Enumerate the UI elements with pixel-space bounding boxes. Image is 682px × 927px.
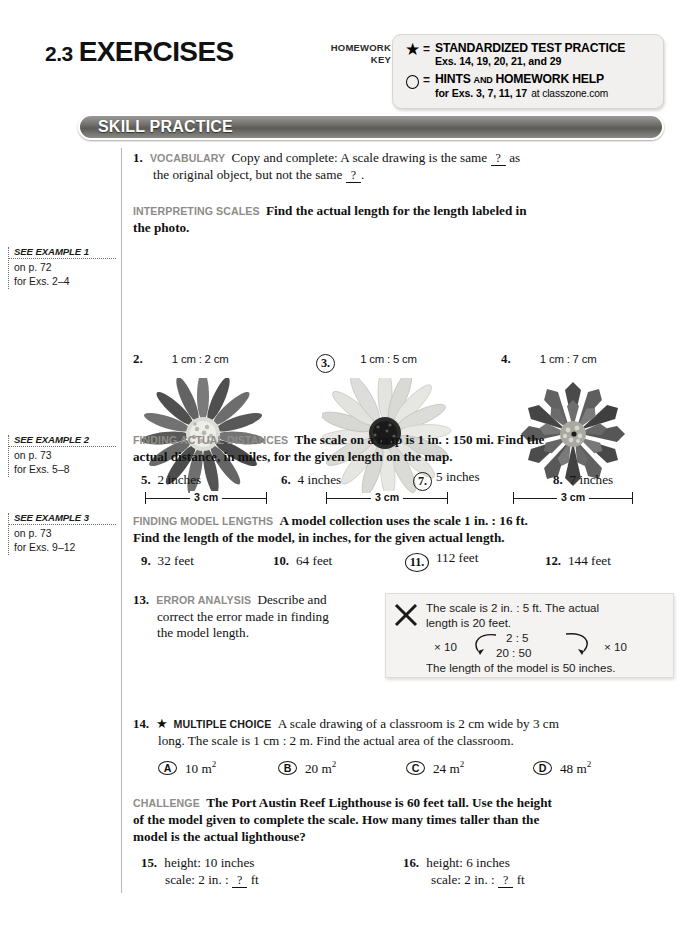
exercises-9-12-row: 9. 32 feet 10. 64 feet 11. 112 feet 12. … (133, 551, 673, 573)
distances-line-1: The scale on a map is 1 in. : 150 mi. Fi… (295, 432, 545, 447)
error-work-line-1: The scale is 2 in. : 5 ft. The actual (426, 600, 671, 615)
left-multiplier: × 10 (434, 639, 457, 654)
see-example-title: SEE EXAMPLE 3 (14, 512, 89, 523)
hints-exercise-list: for Exs. 3, 7, 11, 17 (435, 87, 527, 99)
scale-ruler-4: 3 cm (513, 492, 633, 504)
choice-letter: A (158, 761, 177, 775)
choice-letter: D (533, 761, 552, 775)
exercise-1-text-b: as (509, 150, 520, 165)
lesson-number: 2.3 (45, 42, 73, 65)
star-icon: ★ (401, 41, 423, 58)
exercise-13-line-3: the model length. (157, 625, 249, 640)
models-line-1: A model collection uses the scale 1 in. … (280, 513, 528, 528)
exercise-number-circled[interactable]: 3. (316, 354, 335, 373)
exercise-14-choices: A 10 m2 B 20 m2 C 24 m2 D 48 m2 (133, 759, 673, 781)
exercise-13-line-2: correct the error made in finding (157, 609, 329, 624)
exercise-15-scale-pre: scale: 2 in. : (165, 872, 229, 887)
ruler-label: 3 cm (371, 491, 403, 503)
answer-blank-1: ? (491, 151, 506, 166)
exercise-8: 8. 7 inches (553, 470, 613, 489)
exercise-number: 1. (133, 151, 143, 165)
choice-a[interactable]: A 10 m2 (158, 759, 216, 778)
choice-exponent: 2 (587, 759, 592, 769)
exercise-number: 7. (418, 474, 427, 489)
answer-blank: ? (498, 873, 513, 888)
see-example-exercises: for Exs. 5–8 (14, 463, 116, 477)
challenge-line-2: of the model given to complete the scale… (133, 812, 539, 827)
exercise-14-line-2: long. The scale is 1 cm : 2 m. Find the … (158, 733, 514, 748)
exercise-number-circled[interactable]: 7. (413, 472, 432, 491)
exercise-16-scale-pre: scale: 2 in. : (431, 872, 495, 887)
choice-letter: C (406, 761, 425, 775)
equals-sign: = (423, 72, 435, 87)
see-example-page: on p. 73 (14, 527, 116, 541)
choice-c[interactable]: C 24 m2 (406, 759, 464, 778)
star-icon: ★ (156, 717, 168, 731)
flower-exercise-3: 3. 1 cm : 5 cm (316, 352, 498, 373)
flower-scale-label: 1 cm : 7 cm (540, 353, 597, 365)
exercise-1-text-c: the original object, but not the same (153, 167, 342, 182)
ruler-label: 3 cm (557, 491, 589, 503)
challenge-directions: CHALLENGE The Port Austin Reef Lighthous… (133, 795, 673, 845)
classzone-url: at classzone.com (531, 88, 608, 99)
exercise-10-text: 64 feet (296, 553, 332, 568)
error-work-conclusion: The length of the model is 50 inches. (426, 660, 615, 675)
interpreting-line-1: Find the actual length for the length la… (266, 203, 527, 218)
exercise-number: 14. (133, 717, 149, 731)
challenge-line-3: model is the actual lighthouse? (133, 829, 306, 844)
homework-key-label: HOMEWORK KEY (271, 42, 391, 66)
exercise-7: 7. 5 inches (413, 467, 480, 491)
choice-value: 24 m (433, 761, 460, 776)
exercise-number: 2. (133, 352, 143, 366)
distances-line-2: actual distance, in miles, for the given… (133, 449, 453, 464)
see-example-box-2: SEE EXAMPLE 2 on p. 73 for Exs. 5–8 (8, 446, 116, 476)
ruler-label: 3 cm (190, 491, 222, 503)
finding-distances-directions: FINDING ACTUAL DISTANCES The scale on a … (133, 432, 673, 466)
exercise-number-circled[interactable]: 11. (405, 553, 429, 572)
exercise-6: 6. 4 inches (281, 470, 341, 489)
directions-tag-interpreting: INTERPRETING SCALES (133, 205, 260, 217)
exercise-10: 10. 64 feet (273, 551, 332, 570)
and-word: AND (474, 75, 493, 85)
exercises-5-8-row: 5. 2 inches 6. 4 inches 7. 5 inches 8. 7… (133, 470, 673, 492)
answer-blank-2: ? (346, 168, 361, 183)
choice-letter: B (278, 761, 297, 775)
choice-value: 20 m (305, 761, 332, 776)
exercise-number: 11. (410, 555, 425, 570)
exercise-number: 3. (321, 356, 330, 371)
homework-key-detail-hints: for Exs. 3, 7, 11, 17at classzone.com (435, 87, 608, 100)
exercise-1-text-a: Copy and complete: A scale drawing is th… (232, 150, 488, 165)
equals-sign: = (423, 41, 435, 56)
homework-help-word: HOMEWORK HELP (495, 72, 603, 86)
exercise-number: 15. (141, 856, 157, 870)
directions-tag-distances: FINDING ACTUAL DISTANCES (133, 434, 288, 446)
hints-word: HINTS (435, 72, 471, 86)
exercise-16: 16. height: 6 inches scale: 2 in. : ? ft (403, 855, 643, 888)
page-header: 2.3EXERCISES HOMEWORK KEY ★ = STANDARDIZ… (0, 0, 682, 108)
scale-ruler-2: 3 cm (145, 492, 267, 504)
exercise-12-text: 144 feet (568, 553, 611, 568)
exercise-11: 11. 112 feet (405, 548, 478, 572)
exercise-14-line-1: A scale drawing of a classroom is 2 cm w… (278, 716, 559, 731)
flower-exercise-4: 4. 1 cm : 7 cm (501, 352, 681, 367)
see-example-page: on p. 73 (14, 449, 116, 463)
homework-key-box: ★ = STANDARDIZED TEST PRACTICE Exs. 14, … (392, 34, 664, 109)
lesson-word: EXERCISES (79, 36, 234, 67)
choice-exponent: 2 (332, 759, 337, 769)
page-title: 2.3EXERCISES (45, 36, 234, 68)
skill-practice-label: SKILL PRACTICE (98, 118, 233, 136)
skill-practice-banner: SKILL PRACTICE (78, 114, 664, 140)
exercise-1-text-d: . (361, 167, 364, 182)
margin-divider-line (121, 148, 122, 893)
choice-b[interactable]: B 20 m2 (278, 759, 336, 778)
flower-exercise-2: 2. 1 cm : 2 cm (133, 352, 313, 367)
see-example-title: SEE EXAMPLE 1 (14, 246, 89, 257)
homework-key-title-hints: HINTSANDHOMEWORK HELP (435, 72, 608, 87)
exercise-16-height: height: 6 inches (426, 855, 510, 870)
exercise-tag-error-analysis: ERROR ANALYSIS (156, 594, 251, 606)
choice-d[interactable]: D 48 m2 (533, 759, 591, 778)
finding-models-directions: FINDING MODEL LENGTHS A model collection… (133, 513, 673, 547)
scale-ruler-3: 3 cm (326, 492, 448, 504)
see-example-box-3: SEE EXAMPLE 3 on p. 73 for Exs. 9–12 (8, 524, 116, 554)
choice-exponent: 2 (212, 759, 217, 769)
